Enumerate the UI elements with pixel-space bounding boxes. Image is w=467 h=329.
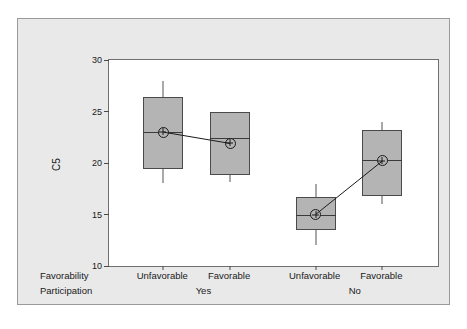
whisker-lower-unfavorable-no — [315, 230, 316, 245]
y-tick-label-30: 30 — [92, 56, 109, 65]
category-label-unfavorable-no: Unfavorable — [289, 270, 340, 281]
x-axis-category-labels: Favorability Participation UnfavorableFa… — [18, 268, 451, 304]
y-tick-label-20: 20 — [92, 159, 109, 168]
category-label-unfavorable-yes: Unfavorable — [137, 270, 188, 281]
whisker-lower-favorable-yes — [230, 175, 231, 181]
category-label-favorable-no: Favorable — [360, 270, 402, 281]
whisker-upper-favorable-no — [382, 122, 383, 130]
factor-row-title-participation: Participation — [40, 285, 92, 296]
group-label-yes: Yes — [196, 285, 212, 296]
whisker-upper-unfavorable-no — [315, 184, 316, 197]
figure-panel: C5 3025201510 Favorability Participation… — [17, 18, 450, 305]
mean-marker-unfavorable-yes — [158, 127, 169, 138]
group-label-no: No — [349, 285, 361, 296]
whisker-lower-favorable-no — [382, 196, 383, 204]
plot-area: 3025201510 — [108, 59, 439, 267]
mean-marker-favorable-yes — [225, 138, 236, 149]
whisker-lower-unfavorable-yes — [163, 169, 164, 182]
y-tick-label-15: 15 — [92, 210, 109, 219]
y-axis-title: C5 — [51, 158, 62, 171]
whisker-upper-unfavorable-yes — [163, 81, 164, 97]
y-tick-label-25: 25 — [92, 107, 109, 116]
factor-row-title-favorability: Favorability — [40, 270, 89, 281]
category-label-favorable-yes: Favorable — [208, 270, 250, 281]
